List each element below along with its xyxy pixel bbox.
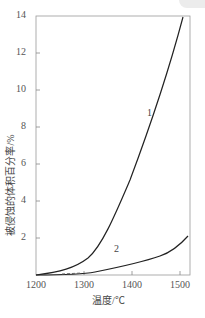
curve-2 xyxy=(36,236,188,275)
y-tick-2: 2 xyxy=(4,231,26,242)
y-tick-4: 4 xyxy=(4,194,26,205)
y-tick-10: 10 xyxy=(4,83,26,94)
y-tick-8: 8 xyxy=(4,120,26,131)
plot-area xyxy=(0,0,205,318)
curve-1 xyxy=(36,17,183,275)
y-tick-14: 14 xyxy=(4,9,26,20)
y-tick-6: 6 xyxy=(4,157,26,168)
plot-frame xyxy=(36,16,190,275)
curve-1-label: 1 xyxy=(147,107,152,118)
curve-2-label: 2 xyxy=(114,243,119,254)
x-tick-1200: 1200 xyxy=(21,279,51,290)
y-axis-label: 被侵蚀的体积百分率/% xyxy=(2,90,16,280)
x-axis-label: 温度/℃ xyxy=(92,292,125,307)
x-tick-1300: 1300 xyxy=(69,279,99,290)
y-ticks xyxy=(36,53,40,238)
x-tick-1500: 1500 xyxy=(165,279,195,290)
y-tick-12: 12 xyxy=(4,46,26,57)
corner-decoration xyxy=(179,0,205,8)
x-tick-1400: 1400 xyxy=(117,279,147,290)
chart: 被侵蚀的体积百分率/% 14 12 10 8 6 4 2 1200 1300 1… xyxy=(0,0,205,318)
